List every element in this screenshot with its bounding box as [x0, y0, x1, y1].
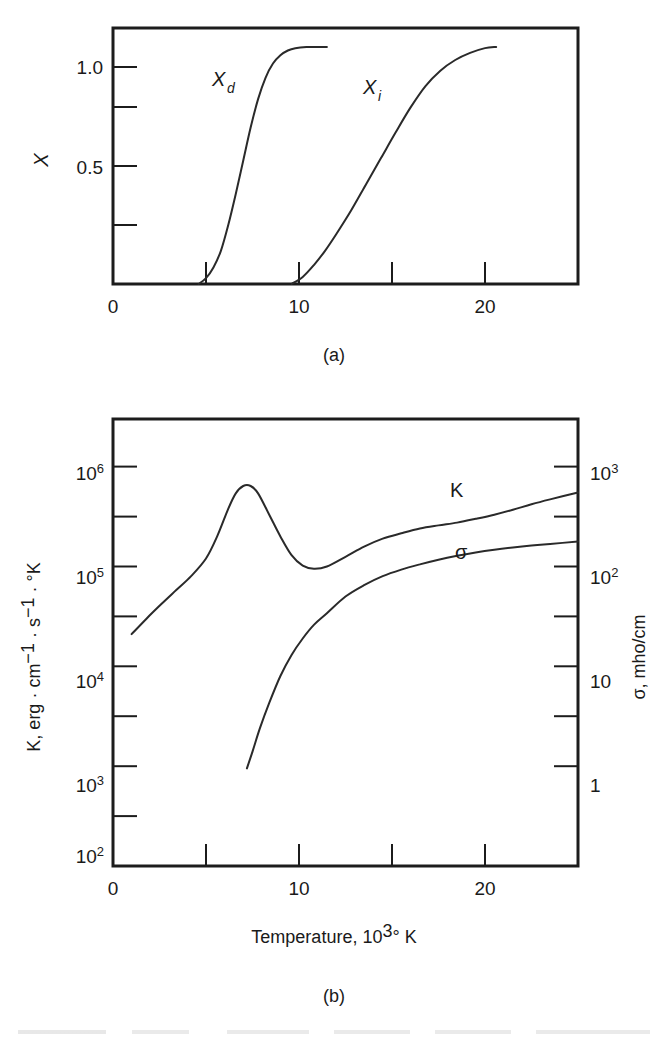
- panel-a-plot-frame: [113, 28, 578, 284]
- panel-a-y-ticks: [113, 67, 137, 225]
- panel-a-xtick-label-0: 0: [108, 296, 119, 317]
- panel-a-x-ticks: [206, 262, 485, 284]
- panel-a-y-axis-title: X: [30, 153, 52, 168]
- ytick-right-1: 1: [590, 775, 601, 796]
- panel-b-left-y-ticks: [113, 467, 137, 866]
- panel-a-caption: (a): [323, 345, 345, 365]
- panel-b-x-axis-title: Temperature, 103° K: [251, 921, 416, 947]
- curve-thermal-conductivity-k: [132, 485, 578, 634]
- panel-b-right-tick-labels: 103 102 10 1: [590, 461, 618, 796]
- ytick-left-1e5: 105: [76, 565, 104, 588]
- curve-label-x-d-main: X: [211, 68, 226, 90]
- curve-label-sigma: σ: [455, 541, 468, 563]
- panel-a-chart: 1.0 0.5 0 10 20 X X d X i (a): [0, 0, 668, 380]
- panel-b-right-axis-title: σ, mho/cm: [629, 614, 649, 699]
- panel-a-xtick-label-10: 10: [288, 296, 309, 317]
- curve-label-x-i-main: X: [362, 76, 377, 98]
- page-bottom-artifact: [18, 1030, 650, 1034]
- panel-b-left-tick-labels: 106 105 104 103 102: [76, 461, 104, 867]
- ytick-left-1e3: 103: [76, 773, 104, 796]
- ytick-right-1e2: 102: [590, 565, 618, 588]
- panel-b-left-axis-title: K, erg · cm−1 · s−1 · °K: [18, 562, 44, 751]
- panel-a-ytick-label-0: 0.5: [77, 157, 103, 178]
- curve-label-k: K: [450, 479, 464, 501]
- figure-container: 1.0 0.5 0 10 20 X X d X i (a): [0, 0, 668, 1039]
- ytick-right-1e3: 103: [590, 461, 618, 484]
- curve-label-x-d: X d: [211, 68, 236, 96]
- panel-b-xtick-label-10: 10: [288, 878, 309, 899]
- ytick-left-1e4: 104: [76, 669, 104, 692]
- curve-label-x-i-subscript: i: [378, 88, 382, 104]
- curve-x-i: [292, 47, 497, 284]
- panel-a-ytick-label-1: 1.0: [77, 57, 103, 78]
- ytick-left-1e6: 106: [76, 461, 104, 484]
- panel-b-right-y-ticks: [554, 467, 578, 767]
- panel-b-caption: (b): [323, 986, 345, 1006]
- panel-b-chart: 106 105 104 103 102 103 102 10 1 0 10 20…: [0, 389, 668, 1039]
- panel-b-x-ticks: [206, 844, 485, 866]
- ytick-right-10: 10: [590, 671, 611, 692]
- panel-b-xtick-label-20: 20: [474, 878, 495, 899]
- curve-electrical-conductivity-sigma: [247, 541, 578, 768]
- panel-a-xtick-label-20: 20: [474, 296, 495, 317]
- panel-b-xtick-label-0: 0: [108, 878, 119, 899]
- curve-label-x-d-subscript: d: [227, 80, 236, 96]
- curve-label-x-i: X i: [362, 76, 382, 104]
- ytick-left-1e2: 102: [76, 844, 104, 867]
- panel-b-plot-frame: [113, 419, 578, 866]
